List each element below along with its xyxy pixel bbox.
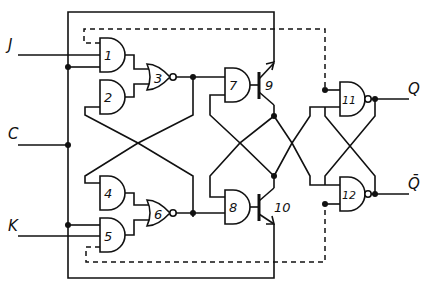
svg-text:11: 11	[342, 94, 356, 107]
cross-wire-78-a	[210, 95, 274, 143]
junction-dot	[322, 201, 328, 207]
jk-flip-flop-diagram: 1 2 3 4 5 6 7 8	[0, 0, 429, 289]
label-q: Q	[408, 80, 420, 98]
gate-7-and: 7	[225, 68, 250, 102]
gate-11-nand: 11	[340, 82, 371, 116]
gate4-to-gate6-wire	[125, 193, 149, 205]
transistor-10	[250, 176, 274, 224]
gate-5-and: 5	[100, 218, 125, 252]
label-qbar: Q̄	[408, 174, 420, 193]
svg-text:12: 12	[342, 189, 356, 202]
svg-text:5: 5	[104, 229, 112, 244]
gate-3-nor: 3	[147, 64, 176, 90]
label-j: J	[5, 36, 12, 54]
gate1-to-gate3-wire	[125, 55, 149, 69]
gate-1-and: 1	[100, 38, 125, 72]
label-c: C	[8, 125, 19, 143]
junction-dot	[65, 64, 71, 70]
wire-to-gate11	[274, 107, 340, 143]
gate-12-nand: 12	[340, 177, 371, 211]
svg-text:7: 7	[229, 78, 238, 93]
junction-dot	[65, 222, 71, 228]
junction-dot	[65, 142, 71, 148]
svg-text:8: 8	[229, 200, 237, 215]
circuit-svg: 1 2 3 4 5 6 7 8	[0, 0, 429, 289]
cross-wire-78-b	[210, 143, 274, 197]
gate-2-and: 2	[100, 80, 125, 114]
svg-text:4: 4	[104, 186, 112, 201]
gate5-to-gate6-wire	[125, 220, 149, 235]
label-transistor-9: 9	[265, 78, 273, 93]
label-k: K	[8, 217, 19, 235]
svg-text:2: 2	[104, 90, 112, 105]
gate-6-nor: 6	[147, 200, 176, 226]
junction-dot	[322, 87, 328, 93]
wire-to-gate12	[274, 143, 340, 185]
svg-text:6: 6	[154, 207, 162, 222]
gate-4-and: 4	[100, 176, 125, 210]
label-transistor-10: 10	[274, 200, 291, 215]
gate-8-and: 8	[225, 190, 250, 224]
svg-text:1: 1	[104, 48, 112, 63]
svg-text:3: 3	[154, 71, 162, 86]
gate2-to-gate3-wire	[125, 84, 149, 97]
junction-dot	[190, 210, 196, 216]
